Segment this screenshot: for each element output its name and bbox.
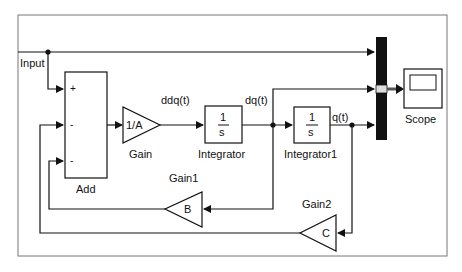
integrator1-label: Integrator1	[284, 148, 337, 160]
mux-bus-port	[376, 85, 387, 93]
gain1-value: B	[184, 203, 191, 215]
integrator1-num: 1	[309, 111, 315, 123]
ddq-label: ddq(t)	[161, 94, 190, 106]
branch-point-q	[349, 122, 354, 127]
integrator-num: 1	[220, 111, 226, 123]
add-port-minus-1: -	[70, 119, 73, 131]
scope-label: Scope	[405, 113, 436, 125]
gain2-label: Gain2	[302, 198, 331, 210]
add-port-minus-2: -	[70, 155, 73, 167]
gain2-block[interactable]	[300, 215, 336, 251]
integrator-label: Integrator	[198, 148, 245, 160]
add-label: Add	[76, 183, 96, 195]
diagram-canvas	[0, 0, 462, 272]
gain2-value: C	[322, 227, 330, 239]
integrator-den: s	[219, 126, 225, 138]
input-label: Input	[20, 57, 44, 69]
add-port-plus: +	[70, 83, 76, 95]
scope-screen-icon	[410, 75, 436, 90]
gain1-label: Gain1	[169, 172, 198, 184]
branch-point-input	[45, 49, 50, 54]
gain-label: Gain	[129, 148, 152, 160]
integrator1-den: s	[308, 126, 314, 138]
gain-value: 1/A	[126, 119, 143, 131]
dq-label: dq(t)	[245, 94, 268, 106]
branch-point-dq	[270, 122, 275, 127]
q-label: q(t)	[332, 111, 349, 123]
